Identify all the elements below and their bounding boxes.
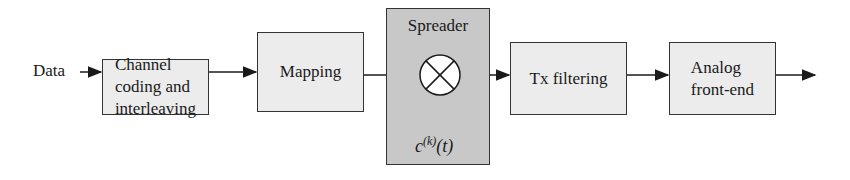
block-tx-filtering: Tx filtering xyxy=(510,42,627,115)
block-analog-front-end: Analog front-end xyxy=(669,42,776,115)
block-label: Channel coding and interleaving xyxy=(115,54,196,120)
block-channel-coding: Channel coding and interleaving xyxy=(102,59,209,115)
input-label-data: Data xyxy=(33,61,65,81)
block-label: Mapping xyxy=(280,61,341,83)
block-label: Tx filtering xyxy=(530,68,608,90)
block-label: Analog front-end xyxy=(691,57,754,101)
block-mapping: Mapping xyxy=(257,32,364,112)
block-label: Spreader xyxy=(408,15,468,37)
spreading-code-label: c(k)(t) xyxy=(415,134,453,157)
